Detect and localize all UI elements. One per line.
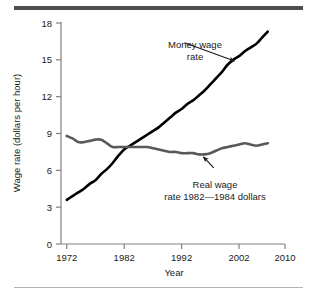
y-tick-label: 0 [47, 239, 52, 250]
series-line [67, 136, 268, 155]
y-tick-label: 3 [47, 202, 52, 213]
y-tick-label: 12 [41, 91, 52, 102]
x-tick-label: 2010 [274, 252, 295, 263]
annotation-layer: Money wagerateReal wagerate 1982—1984 do… [164, 39, 266, 202]
figure-container: 0369121518 19721982199220022010 Money wa… [0, 0, 318, 297]
x-tick-label: 1972 [56, 252, 77, 263]
series-layer [67, 32, 268, 200]
y-tick-label: 18 [41, 18, 52, 29]
annotation-arrow [203, 157, 213, 168]
wage-rate-line-chart: 0369121518 19721982199220022010 Money wa… [0, 0, 318, 297]
x-axis-title: Year [164, 267, 183, 278]
y-axis-title: Wage rate (dollars per hour) [11, 74, 22, 192]
series-annotation-label: rate [187, 51, 203, 62]
axes-group [61, 22, 285, 244]
x-tick-label: 1992 [171, 252, 192, 263]
series-annotation-label: Money wage [168, 39, 222, 50]
x-tick-label: 2002 [228, 252, 249, 263]
series-annotation-label: Real wage [193, 179, 238, 190]
y-axis-ticks: 0369121518 [41, 18, 61, 250]
x-axis-ticks: 19721982199220022010 [56, 244, 295, 263]
y-tick-label: 15 [41, 54, 52, 65]
series-line [67, 32, 268, 200]
y-tick-label: 9 [47, 128, 52, 139]
x-tick-label: 1982 [114, 252, 135, 263]
y-tick-label: 6 [47, 165, 52, 176]
series-annotation-label: rate 1982—1984 dollars [164, 191, 266, 202]
